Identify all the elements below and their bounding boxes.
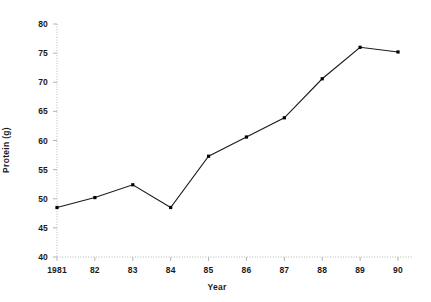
y-axis-title: Protein (g) xyxy=(1,127,11,173)
tick-marks xyxy=(53,24,398,261)
y-tick-label: 80 xyxy=(0,19,48,29)
data-point xyxy=(207,155,210,158)
plot-area xyxy=(0,0,431,302)
data-point xyxy=(55,206,58,209)
data-point xyxy=(396,50,399,53)
y-tick-label: 45 xyxy=(0,223,48,233)
data-point xyxy=(131,183,134,186)
data-point xyxy=(359,46,362,49)
data-markers xyxy=(55,46,399,209)
x-tick-label: 87 xyxy=(279,265,289,275)
y-tick-label: 70 xyxy=(0,77,48,87)
x-tick-label: 82 xyxy=(90,265,100,275)
x-tick-label: 84 xyxy=(166,265,176,275)
x-tick-label: 88 xyxy=(317,265,327,275)
x-tick-label: 89 xyxy=(355,265,365,275)
data-point xyxy=(245,135,248,138)
axes xyxy=(57,24,412,257)
x-axis-title: Year xyxy=(207,282,226,292)
x-tick-label: 83 xyxy=(128,265,138,275)
line-chart: 404550556065707580 198182838485868788899… xyxy=(0,0,431,302)
y-tick-label: 50 xyxy=(0,194,48,204)
data-point xyxy=(321,77,324,80)
x-tick-label: 85 xyxy=(204,265,214,275)
data-point xyxy=(283,116,286,119)
data-point xyxy=(93,196,96,199)
y-tick-label: 75 xyxy=(0,48,48,58)
y-tick-label: 65 xyxy=(0,106,48,116)
data-point xyxy=(169,206,172,209)
y-tick-label: 40 xyxy=(0,252,48,262)
x-tick-label: 1981 xyxy=(47,265,67,275)
data-line xyxy=(57,47,398,207)
x-tick-label: 86 xyxy=(242,265,252,275)
x-tick-label: 90 xyxy=(393,265,403,275)
